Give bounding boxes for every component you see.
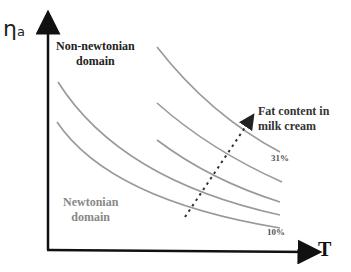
label-31-percent: 31%	[271, 153, 289, 163]
fat-content-label: Fat content inmilk cream	[258, 104, 329, 134]
newtonian-label: Newtoniandomain	[63, 195, 118, 225]
non-newtonian-label: Non-newtoniandomain	[56, 39, 135, 69]
label-10-percent: 10%	[267, 227, 285, 237]
x-axis	[47, 250, 310, 252]
y-axis-label: ηa	[3, 16, 25, 41]
x-axis-label: T	[318, 238, 331, 261]
diagram-canvas	[0, 0, 351, 272]
fat-content-arrow	[185, 120, 250, 217]
curve-31-percent	[157, 47, 280, 152]
